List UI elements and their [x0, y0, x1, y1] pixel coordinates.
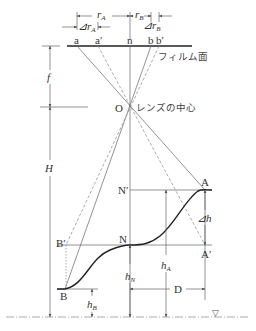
label-delta-rB: ⊿rB: [143, 19, 161, 33]
label-delta-h: ⊿h: [197, 212, 212, 224]
label-f: f: [47, 71, 52, 83]
film-point-a: a: [74, 34, 79, 46]
film-plane-label: フィルム面: [158, 51, 208, 62]
label-hB: hB: [87, 298, 98, 312]
label-delta-rA: ⊿rA: [78, 20, 96, 34]
height-arrows: [92, 190, 205, 317]
label-hA: hA: [161, 259, 172, 273]
label-rA: rA: [97, 8, 106, 22]
point-N-prime: N′: [118, 184, 128, 196]
film-point-b: b: [148, 34, 154, 46]
lens-point-O: O: [115, 102, 123, 114]
lens-center-label: レンズの中心: [136, 102, 196, 113]
point-B-prime: B′: [56, 237, 66, 249]
point-N: N: [119, 233, 127, 245]
point-A-prime: A′: [201, 248, 211, 260]
point-B: B: [60, 290, 67, 302]
film-point-n: n: [127, 34, 133, 46]
relief-displacement-diagram: rA rB ⊿rA ⊿rB a a′ n b b′ フィルム面 O レンズの中心: [0, 0, 256, 331]
terrain-profile: [57, 190, 212, 289]
label-H: H: [44, 162, 54, 174]
film-point-b-prime: b′: [156, 34, 164, 46]
film-point-a-prime: a′: [95, 34, 102, 46]
label-D: D: [174, 283, 182, 295]
datum-symbol: ▽: [212, 308, 219, 318]
point-A: A: [201, 176, 209, 188]
left-dimensions: [40, 46, 88, 317]
label-hN: hN: [125, 270, 136, 284]
